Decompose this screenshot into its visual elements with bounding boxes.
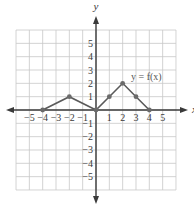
x-tick-label: −3 — [51, 112, 62, 123]
function-graph: y x −5−4−3−2−11234554321−1−2−3−4−5 y = f… — [0, 0, 194, 211]
x-axis-right-arrow-icon — [180, 107, 188, 113]
data-point — [120, 81, 125, 86]
x-tick-label: −5 — [24, 112, 35, 123]
y-tick-label: 1 — [88, 91, 93, 102]
data-point — [147, 108, 152, 113]
data-point — [67, 94, 72, 99]
y-tick-label: −1 — [82, 118, 93, 129]
x-tick-label: 2 — [120, 112, 125, 123]
x-tick-label: −2 — [64, 112, 75, 123]
y-tick-label: −5 — [82, 171, 93, 182]
y-tick-label: 5 — [88, 38, 93, 49]
data-point — [107, 94, 112, 99]
y-tick-label: −4 — [82, 158, 93, 169]
function-label: y = f(x) — [131, 71, 162, 83]
y-tick-label: 2 — [88, 78, 93, 89]
x-axis-left-arrow-icon — [6, 107, 14, 113]
axes: y x — [6, 0, 194, 204]
y-tick-label: 3 — [88, 65, 93, 76]
y-axis-label: y — [93, 0, 99, 12]
x-axis-label: x — [191, 103, 194, 115]
x-tick-label: 1 — [107, 112, 112, 123]
x-tick-label: 4 — [147, 112, 152, 123]
data-point — [94, 108, 99, 113]
y-axis-up-arrow-icon — [93, 16, 99, 24]
x-tick-label: −4 — [37, 112, 48, 123]
y-tick-label: 4 — [88, 51, 93, 62]
y-tick-label: −3 — [82, 144, 93, 155]
x-tick-label: 3 — [133, 112, 138, 123]
y-tick-label: −2 — [82, 131, 93, 142]
data-point — [134, 94, 139, 99]
x-tick-label: 5 — [160, 112, 165, 123]
data-point — [40, 108, 45, 113]
y-axis-down-arrow-icon — [93, 196, 99, 204]
